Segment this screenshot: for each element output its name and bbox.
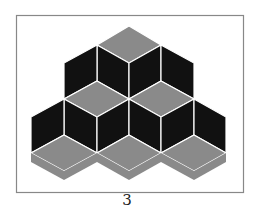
figure-label: 3 bbox=[0, 191, 254, 209]
cube-pattern-figure bbox=[0, 0, 254, 211]
